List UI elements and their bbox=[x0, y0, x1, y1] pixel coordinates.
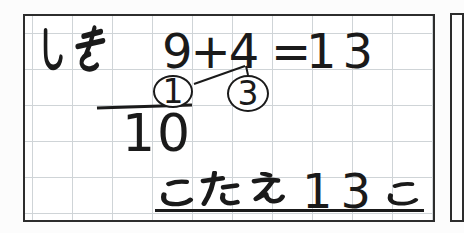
decomposition-circle-3: 3 bbox=[227, 75, 269, 112]
answer-underline bbox=[155, 209, 424, 212]
kana-ko-glyph bbox=[156, 176, 196, 209]
kana-ta-glyph bbox=[199, 171, 241, 209]
partial-sum-value: 10 bbox=[122, 107, 192, 159]
equation-result: 13 bbox=[306, 27, 379, 75]
kana-ki-glyph bbox=[70, 25, 107, 76]
adjacent-panel-edge bbox=[450, 13, 464, 222]
kana-ki: き bbox=[70, 25, 107, 76]
equation-lhs: 9+4 bbox=[162, 27, 257, 75]
kana-shi: し bbox=[36, 28, 66, 76]
kana-e: え bbox=[245, 172, 287, 209]
answer-value: 13 bbox=[302, 167, 379, 215]
kana-ko-counter-glyph bbox=[383, 179, 421, 208]
circle-3-value: 3 bbox=[238, 77, 259, 110]
kana-ta: た bbox=[199, 171, 241, 209]
kana-e-glyph bbox=[245, 172, 287, 209]
kana-ko: こ bbox=[156, 176, 196, 209]
kana-shi-glyph bbox=[36, 28, 66, 76]
answer-counter: こ bbox=[383, 179, 421, 208]
